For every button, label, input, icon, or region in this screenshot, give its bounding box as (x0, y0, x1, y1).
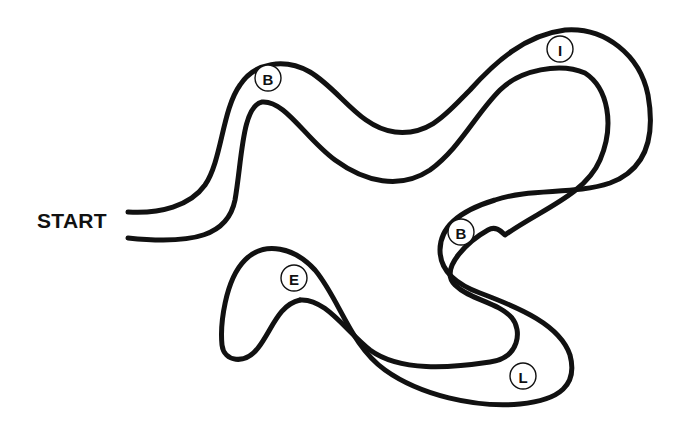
path-inner-wall (128, 68, 608, 367)
path-outer-wall (128, 30, 650, 405)
marker-letter: I (558, 42, 562, 59)
marker-letter: B (456, 225, 467, 242)
marker-letter: L (518, 369, 527, 386)
marker-b-second: B (448, 219, 474, 245)
maze-path-diagram: B I B E L (0, 0, 696, 439)
marker-b-first: B (255, 65, 281, 91)
marker-e: E (281, 265, 307, 291)
marker-l: L (510, 363, 536, 389)
marker-letter: B (263, 71, 274, 88)
marker-letter: E (289, 271, 299, 288)
marker-i: I (547, 36, 573, 62)
